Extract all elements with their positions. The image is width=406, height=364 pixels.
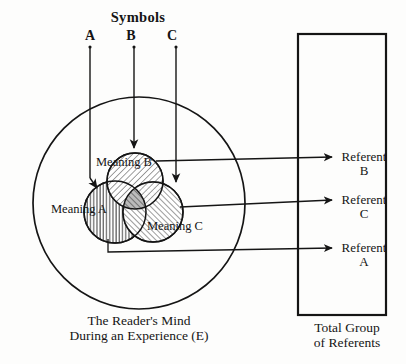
- symbol-label-b: B: [126, 28, 135, 44]
- symbol-label-c: C: [167, 28, 177, 44]
- referent-c-line2: C: [342, 207, 387, 221]
- meaning-b-label: Meaning B: [96, 155, 152, 169]
- referents-caption-line2: of Referents: [314, 335, 380, 350]
- referent-label-b: Referent B: [342, 150, 387, 179]
- referent-a-line1: Referent: [342, 241, 387, 255]
- referent-label-c: Referent C: [342, 193, 387, 222]
- referents-caption-line1: Total Group: [314, 320, 380, 335]
- meaning-c-label: Meaning C: [147, 219, 203, 233]
- diagram-svg: [0, 0, 406, 364]
- readers-mind-caption-line1: The Reader's Mind: [69, 313, 208, 328]
- connector-meaning-b-to-referent-b: [156, 157, 332, 161]
- symbols-title: Symbols: [111, 9, 165, 25]
- readers-mind-caption-line2: During an Experience (E): [69, 328, 208, 343]
- referents-caption: Total Group of Referents: [314, 320, 380, 350]
- readers-mind-caption: The Reader's Mind During an Experience (…: [69, 313, 208, 343]
- referent-b-line1: Referent: [342, 150, 387, 164]
- referent-c-line1: Referent: [342, 193, 387, 207]
- connector-meaning-c-to-referent-c: [180, 200, 332, 207]
- symbol-label-a: A: [85, 28, 95, 44]
- referent-label-a: Referent A: [342, 241, 387, 270]
- meaning-a-label: Meaning A: [51, 202, 107, 216]
- referent-b-line2: B: [342, 164, 387, 178]
- referent-a-line2: A: [342, 255, 387, 269]
- figure-canvas: Symbols A B C Meaning A Meaning B Meanin…: [0, 0, 406, 364]
